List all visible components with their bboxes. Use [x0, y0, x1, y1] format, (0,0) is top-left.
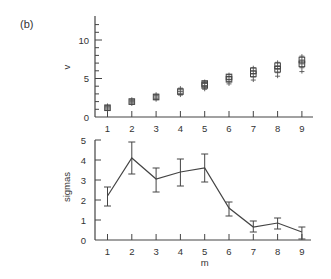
x-tick-label: 7 [251, 123, 256, 134]
x-tick-label: 4 [178, 123, 183, 134]
x-axis-label: m [201, 257, 209, 268]
y-tick-label: 2 [81, 195, 86, 206]
y-tick-label: 4 [81, 155, 86, 166]
x-tick-label: 3 [153, 123, 158, 134]
x-tick-label: 6 [226, 123, 231, 134]
x-tick-label: 8 [275, 246, 280, 257]
x-tick-label: 1 [105, 123, 110, 134]
y-axis-label: v [61, 64, 72, 69]
figure: 0510123456789v 012345123456789msigmas [0, 0, 331, 279]
y-tick-label: 5 [81, 135, 86, 146]
x-tick-label: 2 [129, 246, 134, 257]
x-tick-label: 3 [153, 246, 158, 257]
y-axis-label: sigmas [61, 172, 72, 202]
x-tick-label: 4 [178, 246, 183, 257]
y-tick-label: 10 [78, 35, 89, 46]
v-scatter-plot: 0510123456789v [61, 16, 313, 134]
y-tick-label: 0 [84, 112, 89, 123]
y-tick-label: 0 [81, 235, 86, 246]
x-tick-label: 7 [251, 246, 256, 257]
x-tick-label: 1 [105, 246, 110, 257]
y-tick-label: 5 [84, 73, 89, 84]
sigmas-line-plot: 012345123456789msigmas [61, 135, 311, 269]
x-tick-label: 9 [299, 246, 304, 257]
x-tick-label: 6 [226, 246, 231, 257]
x-tick-label: 8 [275, 123, 280, 134]
x-tick-label: 5 [202, 123, 207, 134]
x-tick-label: 5 [202, 246, 207, 257]
y-tick-label: 1 [81, 215, 86, 226]
x-tick-label: 9 [299, 123, 304, 134]
x-tick-label: 2 [129, 123, 134, 134]
y-tick-label: 3 [81, 175, 86, 186]
